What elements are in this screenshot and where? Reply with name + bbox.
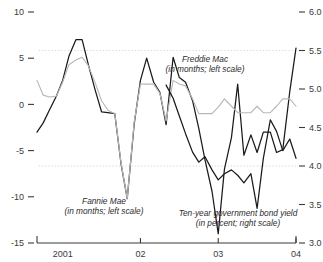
left-tick-label: 5 (19, 53, 24, 63)
series-line-ten-year-government-bond-yield (166, 85, 296, 208)
bottom-tick-label: 02 (135, 249, 145, 259)
series-line-freddie-mac (37, 57, 296, 198)
left-tick-label: -15 (11, 238, 24, 248)
bottom-tick-label: 2001 (53, 249, 73, 259)
series-annotation-sub-ten-year-government-bond-yield: (in percent; right scale) (196, 218, 281, 228)
line-chart: 1050-5-10-15 6.05.55.04.54.03.53.0 20010… (0, 0, 323, 262)
left-tick-label: -5 (16, 146, 24, 156)
series-annotation-title-ten-year-government-bond-yield: Ten-year government bond yield (179, 208, 298, 218)
left-tick-label: -10 (11, 192, 24, 202)
series-annotation-sub-freddie-mac: (in months; left scale) (166, 64, 245, 74)
right-tick-label: 3.5 (309, 200, 322, 210)
left-axis: 1050-5-10-15 (11, 7, 37, 248)
bottom-axis: 2001020304 (37, 238, 301, 259)
series-annotation-sub-fannie-mae: (in months; left scale) (65, 206, 144, 216)
bottom-tick-label: 04 (291, 249, 301, 259)
right-tick-label: 4.5 (309, 123, 322, 133)
right-tick-label: 3.0 (309, 238, 322, 248)
right-tick-label: 5.5 (309, 46, 322, 56)
right-tick-label: 5.0 (309, 84, 322, 94)
annotations: Fannie Mae(in months; left scale)Freddie… (65, 54, 298, 228)
left-tick-label: 0 (19, 100, 24, 110)
bottom-tick-label: 03 (213, 249, 223, 259)
right-tick-label: 6.0 (309, 7, 322, 17)
right-tick-label: 4.0 (309, 161, 322, 171)
series-annotation-title-freddie-mac: Freddie Mac (182, 54, 229, 64)
left-tick-label: 10 (14, 7, 24, 17)
right-axis: 6.05.55.04.54.03.53.0 (296, 7, 322, 248)
chart-container: 1050-5-10-15 6.05.55.04.54.03.53.0 20010… (0, 0, 323, 262)
series-annotation-title-fannie-mae: Fannie Mae (82, 196, 126, 206)
